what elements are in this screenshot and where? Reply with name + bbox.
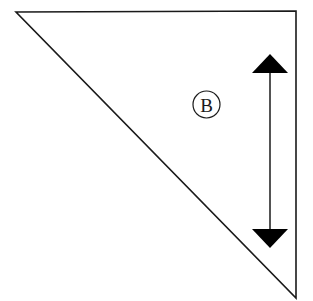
diagram-canvas: B [0, 0, 313, 301]
background [0, 0, 313, 301]
label-letter: B [200, 95, 213, 116]
